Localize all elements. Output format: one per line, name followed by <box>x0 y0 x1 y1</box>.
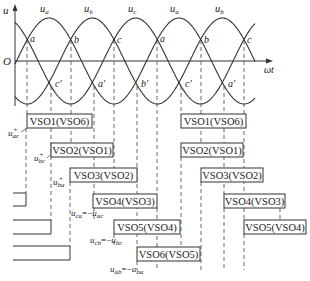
point-a-prime-1: a' <box>98 78 106 89</box>
box-vso2-vso1-2: VSO2(VSO1) <box>181 143 243 157</box>
axes <box>13 4 274 106</box>
box-vso6-vso5-1: VSO6(VSO5) <box>137 247 200 261</box>
box-vso1-vso6-2: VSO1(VSO6) <box>181 114 246 128</box>
box-vso4-vso3-1: VSO4(VSO3) <box>93 194 157 208</box>
svg-text:VSO3(VSO2): VSO3(VSO2) <box>74 170 134 182</box>
point-c-prime-2: c' <box>185 78 192 89</box>
point-b-prime-1: b' <box>141 78 149 89</box>
box-vso5-vso4-2: VSO5(VSO4) <box>244 220 306 234</box>
box-vso5-vso4-1: VSO5(VSO4) <box>114 220 180 234</box>
label-u-ac-plus: uac+ <box>8 126 20 140</box>
x-axis-label: ωt <box>264 64 274 75</box>
point-a-1: a <box>30 33 35 44</box>
svg-text:VSO6(VSO5): VSO6(VSO5) <box>139 249 199 261</box>
svg-text:VSO2(VSO1): VSO2(VSO1) <box>182 145 242 157</box>
left-brackets <box>13 193 70 260</box>
point-a-prime-2: a' <box>228 78 236 89</box>
svg-text:VSO5(VSO4): VSO5(VSO4) <box>245 222 305 234</box>
point-b-1: b <box>74 34 79 45</box>
bracket-1 <box>13 193 26 206</box>
bracket-2 <box>13 220 51 234</box>
svg-text:VSO1(VSO6): VSO1(VSO6) <box>184 116 244 128</box>
box-vso2-vso1-1: VSO2(VSO1) <box>51 143 113 157</box>
conduction-boxes-series-2: VSO1(VSO6) VSO2(VSO1) VSO3(VSO2) VSO4(VS… <box>181 114 306 234</box>
origin-label: O <box>3 55 11 67</box>
box-vso3-vso2-2: VSO3(VSO2) <box>201 168 263 182</box>
label-u-cb-eq-neg-u-bc: ucb=−ubc <box>90 235 123 247</box>
svg-text:VSO3(VSO2): VSO3(VSO2) <box>202 170 262 182</box>
label-u-ca-eq-neg-u-ac: uca=−uac <box>71 208 104 220</box>
svg-text:VSO4(VSO3): VSO4(VSO3) <box>225 196 285 208</box>
box-vso4-vso3-2: VSO4(VSO3) <box>224 194 285 208</box>
y-axis-label: u <box>3 4 9 16</box>
point-c-2: c <box>247 34 252 45</box>
wave-label-ua-2: ua <box>170 3 179 16</box>
svg-text:VSO1(VSO6): VSO1(VSO6) <box>30 116 90 128</box>
x-axis-arrow-icon <box>266 59 273 64</box>
svg-text:VSO2(VSO1): VSO2(VSO1) <box>52 145 112 157</box>
box-vso1-vso6-1: VSO1(VSO6) <box>27 114 92 128</box>
wave-label-uc-1: uc <box>128 3 137 16</box>
label-u-bc-plus: ubc+ <box>34 151 46 165</box>
svg-text:VSO4(VSO3): VSO4(VSO3) <box>95 196 155 208</box>
point-c-prime-1: c' <box>55 78 62 89</box>
wave-label-ua-1: ua <box>40 3 49 16</box>
three-phase-commutation-diagram: u O ωt ua ub uc ua ub a b c a b c c' a' … <box>0 0 310 281</box>
y-axis-arrow-icon <box>13 4 18 11</box>
svg-text:VSO5(VSO4): VSO5(VSO4) <box>117 222 177 234</box>
box-vso3-vso2-1: VSO3(VSO2) <box>70 168 137 182</box>
bracket-3 <box>13 246 70 260</box>
point-c-1: c <box>117 34 122 45</box>
label-u-ba-plus: uba+ <box>53 175 65 189</box>
point-b-2: b <box>204 34 209 45</box>
wave-label-ub-2: ub <box>215 3 224 16</box>
wave-label-ub-1: ub <box>84 3 93 16</box>
label-u-ab-eq-neg-u-ba: uab=−uba <box>110 264 144 276</box>
point-a-2: a <box>160 33 165 44</box>
wave-labels: ua ub uc ua ub <box>40 3 224 16</box>
